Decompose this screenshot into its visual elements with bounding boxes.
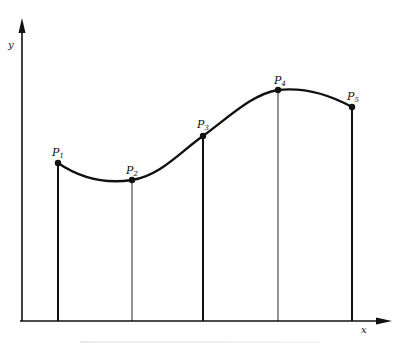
label-p4: P4 xyxy=(273,74,286,88)
point-p4 xyxy=(275,87,281,93)
label-p2: P2 xyxy=(125,164,138,178)
label-p1: P1 xyxy=(51,146,64,160)
point-p5 xyxy=(349,104,355,110)
diagram-canvas: P1 P2 P3 P4 P5 y x xyxy=(0,0,406,345)
y-axis-label: y xyxy=(7,39,14,50)
x-axis-arrow-icon xyxy=(376,318,392,325)
label-p3: P3 xyxy=(196,118,209,132)
y-axis-arrow-icon xyxy=(19,18,26,33)
figure-caption-faint xyxy=(80,338,320,344)
label-p5: P5 xyxy=(346,90,359,104)
x-axis-label: x xyxy=(361,324,367,335)
point-p3 xyxy=(200,133,206,139)
point-p1 xyxy=(55,160,61,166)
